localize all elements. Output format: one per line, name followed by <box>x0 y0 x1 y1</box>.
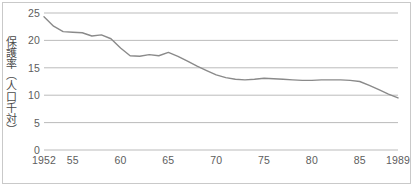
plot-area <box>0 0 414 187</box>
gridlines <box>44 13 398 150</box>
chart-figure: 保護率（人口千対） 2520151050 1952556065707580851… <box>0 0 414 187</box>
data-line-series-0 <box>44 17 398 98</box>
